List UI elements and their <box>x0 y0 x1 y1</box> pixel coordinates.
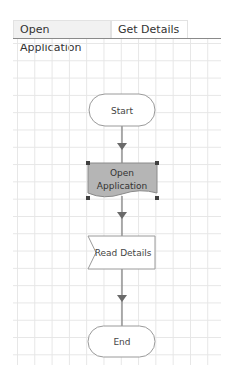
node-start[interactable]: Start <box>89 94 155 126</box>
arrow-down-icon <box>117 212 127 219</box>
resize-handle-top-left[interactable] <box>86 161 90 165</box>
node-end-label: End <box>113 337 130 347</box>
flowchart-diagram: Start Open Application Read Details End <box>0 0 231 384</box>
connector-read-to-end <box>117 269 127 326</box>
node-open-application[interactable]: Open Application <box>86 161 159 200</box>
resize-handle-top-right[interactable] <box>155 161 159 165</box>
connector-open-to-read <box>117 196 127 236</box>
connector-start-to-open <box>117 126 127 163</box>
node-read-details[interactable]: Read Details <box>88 236 155 269</box>
node-end[interactable]: End <box>88 326 155 357</box>
resize-handle-bottom-left[interactable] <box>86 196 90 200</box>
resize-handle-bottom-right[interactable] <box>155 196 159 200</box>
node-read-label: Read Details <box>95 248 152 258</box>
node-start-label: Start <box>111 106 133 116</box>
arrow-down-icon <box>117 295 127 302</box>
arrow-down-icon <box>117 143 127 150</box>
node-open-label-line2: Application <box>97 181 147 191</box>
node-open-label-line1: Open <box>110 168 134 178</box>
